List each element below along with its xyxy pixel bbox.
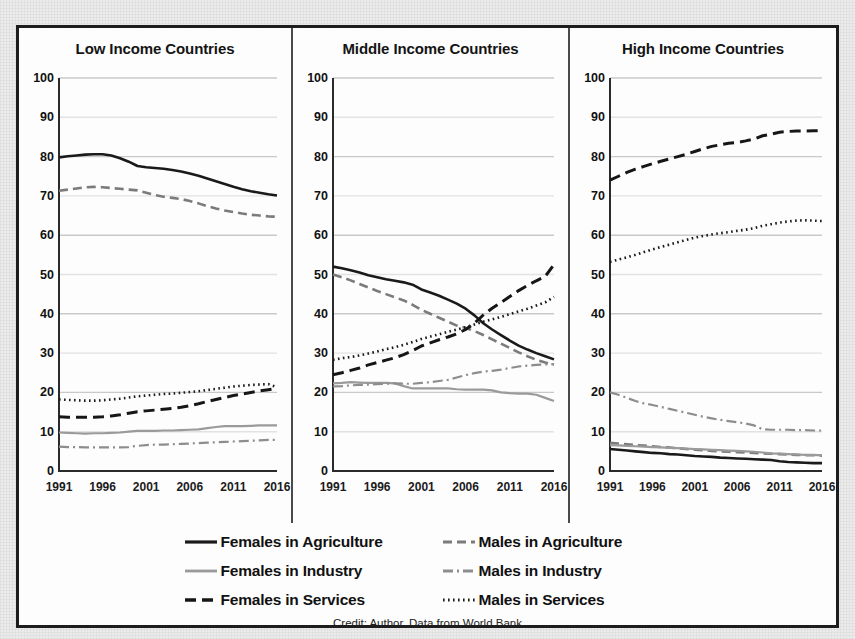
y-axis-tick-label: 30	[314, 346, 328, 360]
x-axis-tick-label: 1996	[639, 480, 666, 494]
legend-label: Females in Services	[221, 591, 365, 609]
figure-container: Low Income Countries01020304050607080901…	[16, 25, 839, 628]
x-axis-tick-label: 2016	[264, 480, 291, 494]
legend-label: Males in Agriculture	[479, 533, 623, 551]
legend-line-swatch-icon	[184, 564, 218, 578]
x-axis-tick-label: 2001	[681, 480, 708, 494]
y-axis-tick-label: 10	[591, 425, 605, 439]
y-axis-tick-label: 10	[40, 425, 54, 439]
legend-item[interactable]: Males in Services	[442, 591, 672, 609]
legend-label: Males in Industry	[479, 562, 602, 580]
legend-row: Females in ServicesMales in Services	[184, 591, 672, 609]
series-line	[59, 425, 277, 433]
x-axis-tick-label: 2011	[767, 480, 793, 494]
plot-area: 0102030405060708090100199119962001200620…	[333, 78, 554, 471]
panel-title: High Income Countries	[570, 40, 836, 57]
legend-row: Females in AgricultureMales in Agricultu…	[184, 533, 672, 551]
legend-line-swatch-icon	[442, 593, 476, 607]
y-axis-tick-label: 60	[591, 228, 605, 242]
plot-svg	[59, 78, 277, 471]
panels-row: Low Income Countries01020304050607080901…	[19, 28, 836, 523]
y-axis-tick-label: 20	[40, 385, 54, 399]
y-axis-tick-label: 100	[33, 71, 54, 85]
x-axis-tick-label: 2001	[408, 480, 435, 494]
plot-svg	[610, 78, 822, 471]
x-axis-tick-label: 1991	[320, 480, 347, 494]
y-axis-tick-label: 10	[314, 425, 328, 439]
y-axis-tick-label: 80	[591, 150, 605, 164]
legend-line-swatch-icon	[442, 535, 476, 549]
y-axis-tick-label: 30	[591, 346, 605, 360]
series-line	[333, 382, 554, 401]
series-line	[59, 187, 277, 217]
series-line	[59, 440, 277, 447]
chart-legend: Females in AgricultureMales in Agricultu…	[19, 524, 836, 609]
legend-item[interactable]: Females in Agriculture	[184, 533, 442, 551]
legend-label: Males in Services	[479, 591, 605, 609]
legend-row: Females in IndustryMales in Industry	[184, 562, 672, 580]
plot-svg	[333, 78, 554, 471]
y-axis-tick-label: 20	[314, 385, 328, 399]
plot-area: 0102030405060708090100199119962001200620…	[610, 78, 822, 471]
y-axis-tick-label: 100	[307, 71, 328, 85]
chart-panel-1: Middle Income Countries01020304050607080…	[291, 28, 568, 523]
x-axis-tick-label: 2011	[220, 480, 246, 494]
x-axis-tick-label: 2016	[541, 480, 568, 494]
legend-label: Females in Agriculture	[221, 533, 383, 551]
series-line	[333, 297, 554, 360]
series-line	[59, 154, 277, 195]
y-axis-tick-label: 60	[314, 228, 328, 242]
x-axis-tick-label: 2011	[497, 480, 523, 494]
y-axis-tick-label: 0	[47, 464, 54, 478]
y-axis-tick-label: 40	[40, 307, 54, 321]
y-axis-tick-label: 80	[40, 150, 54, 164]
x-axis-tick-label: 2006	[176, 480, 203, 494]
x-axis-tick-label: 1991	[46, 480, 73, 494]
legend-item[interactable]: Females in Services	[184, 591, 442, 609]
y-axis-tick-label: 60	[40, 228, 54, 242]
legend-line-swatch-icon	[442, 564, 476, 578]
y-axis-tick-label: 50	[40, 268, 54, 282]
y-axis-tick-label: 50	[314, 268, 328, 282]
series-line	[610, 131, 822, 181]
chart-panel-2: High Income Countries0102030405060708090…	[568, 28, 836, 523]
series-line	[610, 445, 822, 455]
y-axis-tick-label: 50	[591, 268, 605, 282]
x-axis-tick-label: 2001	[133, 480, 160, 494]
legend-item[interactable]: Males in Industry	[442, 562, 672, 580]
y-axis-tick-label: 0	[598, 464, 605, 478]
y-axis-tick-label: 90	[314, 110, 328, 124]
legend-line-swatch-icon	[184, 593, 218, 607]
figure-caption: Credit: Author, Data from World Bank	[19, 617, 836, 628]
y-axis-tick-label: 90	[591, 110, 605, 124]
x-axis-tick-label: 1996	[89, 480, 116, 494]
x-axis-tick-label: 2016	[809, 480, 836, 494]
series-line	[333, 267, 554, 360]
legend-item[interactable]: Males in Agriculture	[442, 533, 672, 551]
y-axis-tick-label: 30	[40, 346, 54, 360]
x-axis-tick-label: 1991	[597, 480, 624, 494]
x-axis-tick-label: 2006	[452, 480, 479, 494]
legend-label: Females in Industry	[221, 562, 363, 580]
x-axis-tick-label: 2006	[724, 480, 751, 494]
panel-title: Low Income Countries	[19, 40, 291, 57]
series-line	[610, 220, 822, 262]
x-axis-tick-label: 1996	[364, 480, 391, 494]
y-axis-tick-label: 40	[314, 307, 328, 321]
y-axis-tick-label: 80	[314, 150, 328, 164]
chart-panel-0: Low Income Countries01020304050607080901…	[19, 28, 291, 523]
y-axis-tick-label: 70	[314, 189, 328, 203]
legend-line-swatch-icon	[184, 535, 218, 549]
y-axis-tick-label: 90	[40, 110, 54, 124]
y-axis-tick-label: 100	[584, 71, 605, 85]
legend-item[interactable]: Females in Industry	[184, 562, 442, 580]
y-axis-tick-label: 70	[40, 189, 54, 203]
series-line	[610, 392, 822, 430]
y-axis-tick-label: 0	[321, 464, 328, 478]
y-axis-tick-label: 40	[591, 307, 605, 321]
y-axis-tick-label: 20	[591, 385, 605, 399]
panel-title: Middle Income Countries	[293, 40, 568, 57]
y-axis-tick-label: 70	[591, 189, 605, 203]
plot-area: 0102030405060708090100199119962001200620…	[59, 78, 277, 471]
